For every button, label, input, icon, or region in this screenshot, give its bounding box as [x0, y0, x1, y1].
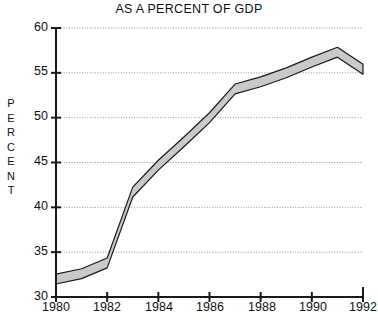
chart-container: AS A PERCENT OF GDP P E R C E N T 60 55 … — [0, 0, 378, 334]
plot-area — [0, 0, 378, 334]
data-series-line — [56, 47, 363, 284]
axis-ticks — [51, 28, 363, 302]
